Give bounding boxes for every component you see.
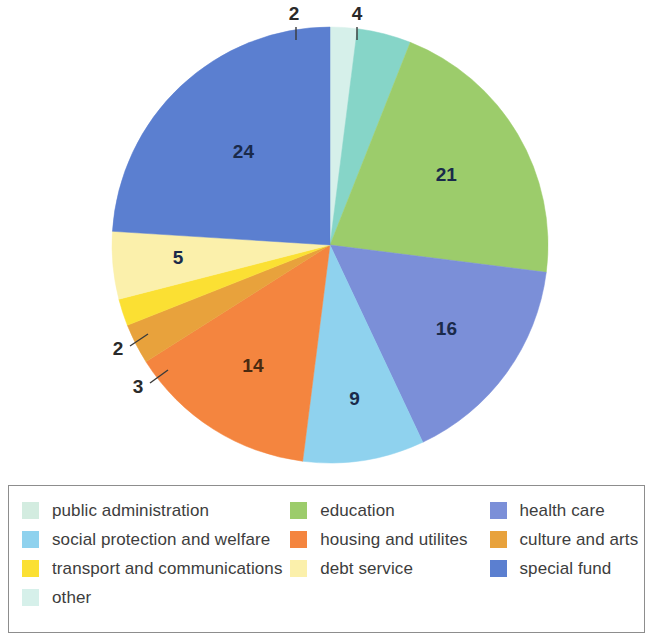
legend-label: housing and utilites — [320, 530, 468, 550]
legend-swatch — [290, 502, 307, 519]
legend-label: special fund — [520, 559, 612, 579]
legend-item[interactable]: transport and communications — [9, 559, 290, 579]
legend-label: social protection and welfare — [52, 530, 270, 550]
legend-row: social protection and welfarehousing and… — [9, 525, 644, 554]
legend-item-placeholder — [490, 589, 645, 606]
legend-label: health care — [520, 501, 605, 521]
legend-item[interactable]: education — [290, 501, 489, 521]
legend-grid: public administrationeducationhealth car… — [9, 486, 644, 632]
legend-swatch — [22, 531, 39, 548]
pie-chart-region: 24211691432524 — [0, 0, 653, 478]
legend-item[interactable]: culture and arts — [490, 530, 645, 550]
pie-slices — [112, 27, 548, 463]
legend-swatch — [22, 502, 39, 519]
pie-slice-value: 3 — [133, 376, 144, 397]
legend-swatch — [490, 560, 507, 577]
legend-item[interactable]: housing and utilites — [290, 530, 489, 550]
pie-slice-value: 21 — [436, 164, 458, 185]
legend-label: debt service — [320, 559, 413, 579]
pie-slice-value: 5 — [173, 247, 184, 268]
legend-item[interactable]: health care — [490, 501, 645, 521]
legend-row: other — [9, 583, 644, 612]
legend-swatch — [22, 560, 39, 577]
legend-swatch — [490, 531, 507, 548]
pie-slice-value: 16 — [436, 318, 457, 339]
legend-swatch — [22, 589, 39, 606]
pie-slice-value: 2 — [289, 3, 300, 24]
pie-chart: 24211691432524 — [0, 0, 653, 478]
legend-swatch — [290, 560, 307, 577]
legend-item[interactable]: public administration — [9, 501, 290, 521]
legend-label: education — [320, 501, 395, 521]
legend: public administrationeducationhealth car… — [8, 485, 645, 633]
legend-item[interactable]: special fund — [490, 559, 645, 579]
legend-item[interactable]: social protection and welfare — [9, 530, 290, 550]
pie-slice-value: 24 — [233, 141, 255, 162]
legend-row: public administrationeducationhealth car… — [9, 496, 644, 525]
legend-item[interactable]: debt service — [290, 559, 489, 579]
legend-label: public administration — [52, 501, 209, 521]
legend-item[interactable]: other — [9, 588, 290, 608]
legend-swatch — [290, 531, 307, 548]
legend-swatch — [490, 502, 507, 519]
pie-slice — [112, 27, 330, 245]
legend-label: culture and arts — [520, 530, 639, 550]
legend-row: transport and communicationsdebt service… — [9, 554, 644, 583]
legend-label: transport and communications — [52, 559, 283, 579]
pie-slice-value: 9 — [349, 388, 360, 409]
legend-label: other — [52, 588, 91, 608]
pie-slice-value: 2 — [113, 338, 124, 359]
pie-slice-value: 4 — [352, 3, 363, 24]
pie-slice-value: 14 — [242, 355, 264, 376]
legend-item-placeholder — [290, 589, 489, 606]
